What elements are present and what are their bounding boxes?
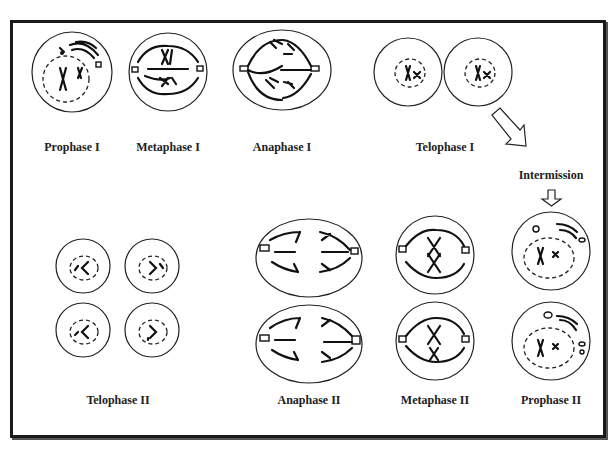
label-intermission: Intermission (519, 168, 584, 183)
arrow-down (542, 190, 561, 206)
telophase-1-cells (374, 38, 512, 106)
anaphase-1-cell (233, 30, 331, 110)
label-prophase-2: Prophase II (521, 393, 581, 408)
arrow-diagonal (492, 108, 526, 146)
label-metaphase-1: Metaphase I (136, 140, 200, 155)
label-telophase-2: Telophase II (86, 393, 149, 408)
anaphase-2-cells (256, 219, 362, 383)
metaphase-2-cells (396, 216, 474, 380)
metaphase-1-cell (129, 33, 207, 111)
prophase-1-cell (32, 32, 112, 112)
label-telophase-1: Telophase I (416, 140, 475, 155)
telophase-2-cells (56, 239, 179, 357)
prophase-2-cells (512, 212, 590, 380)
label-anaphase-1: Anaphase I (253, 140, 311, 155)
label-metaphase-2: Metaphase II (401, 393, 469, 408)
meiosis-diagram (0, 0, 616, 450)
label-prophase-1: Prophase I (44, 140, 99, 155)
label-anaphase-2: Anaphase II (277, 393, 340, 408)
